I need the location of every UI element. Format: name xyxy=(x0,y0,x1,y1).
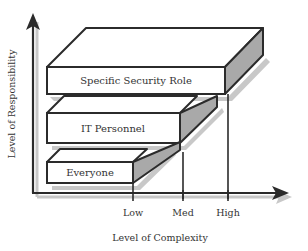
y-axis-label: Level of Responsibility xyxy=(6,49,17,159)
tick-label-high: High xyxy=(216,207,240,218)
box-label-everyone: Everyone xyxy=(66,167,114,178)
tick-label-low: Low xyxy=(123,207,143,218)
box-specific-security-role xyxy=(47,28,270,101)
x-axis-label: Level of Complexity xyxy=(112,232,208,243)
box-label-it-personnel: IT Personnel xyxy=(81,123,145,134)
tick-label-med: Med xyxy=(172,207,193,218)
box-label-specific-security-role: Specific Security Role xyxy=(80,75,192,86)
security-responsibility-diagram: Specific Security Role IT Personnel Ever… xyxy=(0,0,308,251)
